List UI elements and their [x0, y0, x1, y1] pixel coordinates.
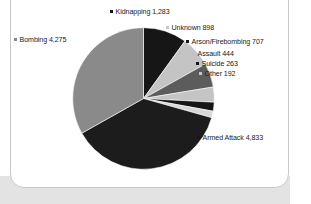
swatch-kidnapping-icon	[110, 10, 113, 13]
pie-slices	[72, 27, 215, 170]
label-other-text: Other 192	[205, 70, 236, 78]
label-kidnapping: Kidnapping 1,283	[110, 8, 170, 17]
label-unknown-text: Unknown 898	[172, 24, 215, 32]
label-suicide: Suicide 263	[196, 60, 238, 69]
label-bombing: Bombing 4,275	[14, 36, 66, 45]
swatch-bombing-icon	[14, 38, 17, 41]
label-suicide-text: Suicide 263	[202, 60, 238, 68]
swatch-arson-icon	[186, 40, 189, 43]
label-arson-firebombing: Arson/Firebombing 707	[186, 38, 264, 47]
figure-root: Kidnapping 1,283 Unknown 898 Arson/Fireb…	[0, 0, 311, 204]
label-unknown: Unknown 898	[166, 24, 214, 33]
label-assault: Assault 444	[192, 50, 234, 59]
label-assault-text: Assault 444	[198, 50, 234, 58]
swatch-armed-attack-icon	[197, 136, 200, 139]
label-armed-attack-text: Armed Attack 4,833	[203, 134, 263, 142]
pie-slice-group	[73, 28, 215, 170]
swatch-suicide-icon	[196, 62, 199, 65]
pie-chart: Kidnapping 1,283 Unknown 898 Arson/Fireb…	[0, 0, 311, 204]
label-bombing-text: Bombing 4,275	[20, 36, 67, 44]
label-armed-attack: Armed Attack 4,833	[197, 134, 263, 143]
label-arson-text: Arson/Firebombing 707	[192, 38, 264, 46]
swatch-unknown-icon	[166, 26, 169, 29]
swatch-assault-icon	[192, 52, 195, 55]
swatch-other-icon	[199, 72, 202, 75]
label-other: Other 192	[199, 70, 235, 79]
label-kidnapping-text: Kidnapping 1,283	[116, 8, 170, 16]
